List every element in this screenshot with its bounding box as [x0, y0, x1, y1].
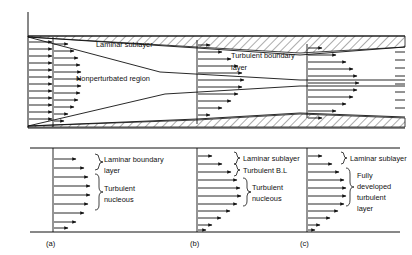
- panel-b-label-turbulent-nucleous: Turbulent: [252, 183, 283, 192]
- panel-c-label-developed: developed: [357, 182, 391, 191]
- panel-c-label-layer: layer: [357, 204, 374, 213]
- panel-c-label-turbulent: turbulent: [357, 193, 386, 202]
- panel-caption-c: (c): [300, 239, 309, 248]
- panel-b-label-turbulent-nucleous-line2: nucleous: [252, 194, 282, 203]
- label-turbulent-boundary: Turbulent boundary: [231, 51, 295, 60]
- panel-b-label-turbulent-bl: Turbulent B.L: [243, 166, 287, 175]
- panel-a-label-turbulent-nucleous: Turbulent: [104, 184, 135, 193]
- panel-caption-b: (b): [190, 239, 200, 248]
- panel-c-label-fully: Fully: [357, 171, 373, 180]
- panel-b-label-laminar-sublayer: Laminar sublayer: [243, 154, 300, 163]
- panel-a-label-laminar-bl-line2: layer: [104, 166, 121, 175]
- label-turbulent-boundary-line2: layer: [231, 63, 248, 72]
- label-nonperturbated-region: Nonperturbated region: [76, 74, 150, 83]
- label-laminar-sublayer: Laminar sublayer: [96, 40, 153, 49]
- panel-a-label-laminar-bl: Laminar boundary: [104, 155, 164, 164]
- panel-a-label-turbulent-nucleous-line2: nucleous: [104, 195, 134, 204]
- figure-canvas: Laminar sublayer Nonperturbated region T…: [0, 0, 412, 255]
- panel-caption-a: (a): [46, 239, 56, 248]
- diagram-svg: Laminar sublayer Nonperturbated region T…: [0, 0, 412, 255]
- panel-c-label-laminar-sublayer: Laminar sublayer: [350, 154, 407, 163]
